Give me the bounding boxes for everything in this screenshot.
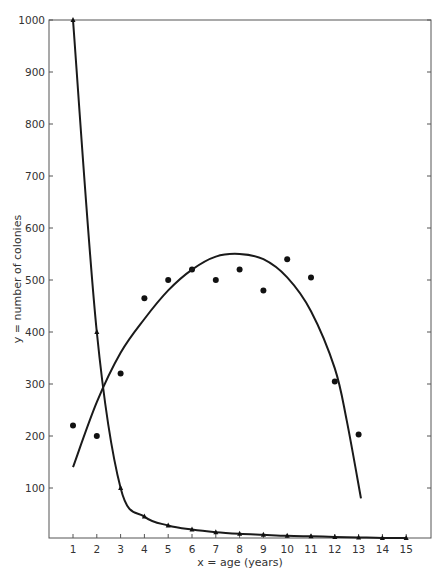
- data-point-dot: [118, 371, 124, 377]
- x-tick-label: 13: [352, 543, 365, 555]
- x-tick-label: 14: [376, 543, 390, 555]
- y-tick-label: 200: [25, 430, 45, 442]
- data-point-dot: [308, 274, 314, 280]
- chart: 1002003004005006007008009001000 12345678…: [0, 0, 442, 580]
- plot-frame: [49, 20, 431, 538]
- data-point-triangle: [94, 329, 99, 334]
- y-tick-label: 900: [25, 66, 45, 78]
- data-point-dot: [356, 431, 362, 437]
- data-point-dot: [332, 378, 338, 384]
- y-tick-label: 600: [25, 222, 45, 234]
- data-point-dot: [94, 433, 100, 439]
- x-tick-label: 3: [117, 543, 124, 555]
- x-tick-label: 9: [260, 543, 267, 555]
- x-tick-label: 8: [236, 543, 243, 555]
- y-tick-label: 800: [25, 118, 45, 130]
- data-point-dot: [260, 287, 266, 293]
- data-point-dot: [213, 277, 219, 283]
- y-tick-label: 1000: [18, 14, 45, 26]
- data-point-dot: [237, 267, 243, 273]
- x-tick-label: 11: [304, 543, 317, 555]
- series-layer: [70, 17, 409, 540]
- x-tick-label: 10: [281, 543, 294, 555]
- data-point-dot: [165, 277, 171, 283]
- x-axis-title: x = age (years): [197, 556, 283, 569]
- y-tick-label: 400: [25, 326, 45, 338]
- x-tick-label: 12: [328, 543, 341, 555]
- x-tick-label: 2: [93, 543, 100, 555]
- data-point-dot: [141, 295, 147, 301]
- x-tick-label: 4: [141, 543, 148, 555]
- y-tick-label: 100: [25, 482, 45, 494]
- series-line: [73, 20, 406, 538]
- x-tick-label: 15: [400, 543, 413, 555]
- data-point-triangle: [118, 485, 123, 490]
- x-tick-label: 7: [212, 543, 219, 555]
- x-tick-label: 1: [70, 543, 77, 555]
- series-line: [73, 254, 361, 499]
- data-point-dot: [284, 256, 290, 262]
- y-tick-label: 500: [25, 274, 45, 286]
- data-point-dot: [70, 423, 76, 429]
- x-tick-label: 6: [189, 543, 196, 555]
- x-tick-label: 5: [165, 543, 172, 555]
- y-tick-label: 700: [25, 170, 45, 182]
- y-tick-label: 300: [25, 378, 45, 390]
- y-axis-title: y = number of colonies: [11, 215, 24, 344]
